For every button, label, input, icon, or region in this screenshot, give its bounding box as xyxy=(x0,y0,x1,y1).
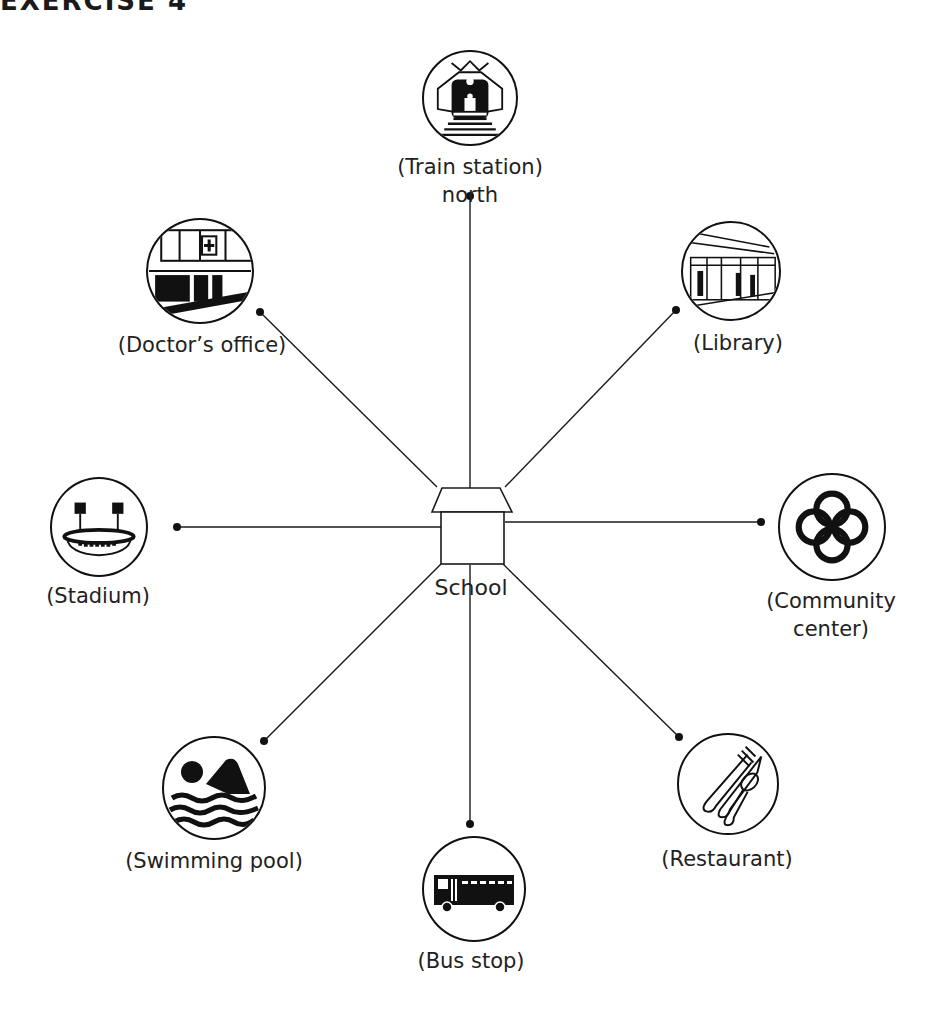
stadium-label: (Stadium) xyxy=(46,583,150,610)
restaurant-label: (Restaurant) xyxy=(661,846,792,873)
train-station-direction: north xyxy=(442,182,498,209)
school-house-icon xyxy=(432,488,512,564)
swimmer-icon xyxy=(162,736,266,840)
school-label: School xyxy=(434,574,507,601)
train-platform-icon xyxy=(681,221,781,321)
stadium-icon xyxy=(50,477,148,577)
train-station-label: (Train station) xyxy=(397,154,543,181)
swimming-pool-label: (Swimming pool) xyxy=(125,848,303,875)
rings-icon xyxy=(778,473,886,581)
doctors-office-label: (Doctor’s office) xyxy=(118,332,287,359)
bus-icon xyxy=(422,836,526,942)
community-center-label: (Community xyxy=(766,588,896,615)
clinic-building-icon xyxy=(146,218,254,324)
library-label: (Library) xyxy=(693,330,783,357)
bus-stop-label: (Bus stop) xyxy=(417,948,524,975)
community-center-label-line2: center) xyxy=(793,616,869,643)
train-icon xyxy=(422,50,518,146)
cutlery-icon xyxy=(677,733,779,835)
